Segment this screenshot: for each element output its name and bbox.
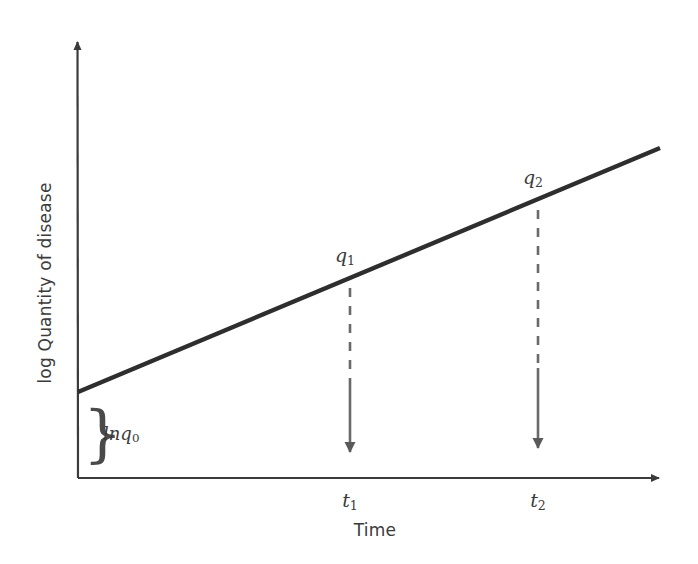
x-tick-t2-base: t (530, 489, 538, 511)
annotation-q1: q1 (335, 244, 355, 268)
x-axis-label: Time (354, 520, 396, 540)
annotation-q2-subscript: 2 (535, 175, 543, 190)
annotation-q2-base: q (523, 166, 535, 188)
vertical-axis-arrow (78, 42, 79, 478)
annotation-q1-subscript: 1 (347, 253, 355, 268)
y-axis-label: log Quantity of disease (35, 182, 55, 383)
disease-growth-diagram (0, 0, 698, 564)
x-tick-t1-base: t (342, 489, 350, 511)
growth-line (78, 148, 660, 392)
annotation-q2: q2 (523, 166, 543, 190)
annotation-lnq0-base: lnq (103, 423, 132, 444)
x-tick-t1-subscript: 1 (350, 498, 358, 513)
annotation-q1-base: q (335, 244, 347, 266)
annotation-lnq0-subscript: 0 (132, 431, 140, 445)
annotation-lnq0: lnq0 (103, 423, 139, 446)
x-tick-label-t2: t2 (530, 489, 546, 513)
x-tick-t2-subscript: 2 (538, 498, 546, 513)
x-tick-label-t1: t1 (342, 489, 358, 513)
